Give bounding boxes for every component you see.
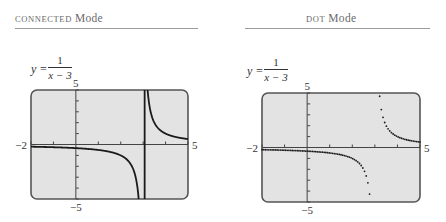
x-max-label: 5	[192, 139, 198, 151]
data-point	[328, 152, 330, 154]
data-point	[338, 154, 340, 156]
data-point	[392, 133, 394, 135]
data-point	[278, 149, 280, 151]
data-point	[409, 140, 411, 142]
data-point	[295, 150, 297, 152]
data-point	[342, 154, 344, 156]
y-max-label: 5	[304, 80, 310, 92]
data-point	[345, 155, 347, 157]
data-point	[296, 150, 298, 152]
data-point	[286, 149, 288, 151]
connected-mode-panel: CONNECTED Mode y = 1 x − 3 −255−5	[0, 0, 223, 222]
data-point	[285, 149, 287, 151]
data-point	[290, 150, 292, 152]
data-point	[276, 149, 278, 151]
data-point	[396, 135, 398, 137]
x-min-label: −2	[246, 142, 258, 154]
data-point	[301, 150, 303, 152]
data-point	[401, 137, 403, 139]
data-point	[300, 150, 302, 152]
data-point	[387, 128, 389, 130]
data-point	[350, 157, 352, 159]
data-point	[280, 149, 282, 151]
data-point	[359, 163, 361, 165]
data-point	[340, 154, 342, 156]
data-point	[407, 139, 409, 141]
data-point	[293, 150, 295, 152]
data-point	[412, 140, 414, 142]
y-min-label: −5	[70, 201, 82, 213]
data-point	[330, 152, 332, 154]
data-point	[365, 175, 367, 177]
data-point	[264, 149, 266, 151]
data-point	[352, 158, 354, 160]
data-point	[417, 141, 419, 143]
y-min-label: −5	[301, 204, 313, 216]
data-point	[335, 153, 337, 155]
data-point	[380, 109, 382, 111]
data-point	[291, 150, 293, 152]
data-point	[270, 149, 272, 151]
data-point	[266, 149, 268, 151]
data-point	[327, 152, 329, 154]
data-point	[394, 134, 396, 136]
data-point	[369, 193, 371, 195]
data-point	[333, 153, 335, 155]
data-point	[391, 132, 393, 134]
data-point	[317, 151, 319, 153]
data-point	[305, 150, 307, 152]
data-point	[355, 160, 357, 162]
data-point	[384, 122, 386, 124]
y-max-label: 5	[73, 77, 79, 89]
data-point	[312, 151, 314, 153]
data-point	[414, 140, 416, 142]
data-point	[306, 150, 308, 152]
data-point	[283, 149, 285, 151]
data-point	[362, 167, 364, 169]
data-point	[315, 151, 317, 153]
data-point	[399, 137, 401, 139]
data-point	[303, 150, 305, 152]
data-point	[382, 116, 384, 118]
data-point	[308, 150, 310, 152]
data-point	[318, 151, 320, 153]
data-point	[337, 153, 339, 155]
data-point	[411, 140, 413, 142]
data-point	[281, 149, 283, 151]
data-point	[385, 125, 387, 127]
data-point	[323, 151, 325, 153]
data-point	[298, 150, 300, 152]
data-point	[364, 170, 366, 172]
data-point	[325, 152, 327, 154]
data-point	[347, 156, 349, 158]
data-point	[360, 165, 362, 167]
data-point	[268, 149, 270, 151]
data-point	[313, 151, 315, 153]
data-point	[379, 95, 381, 97]
data-point	[349, 156, 351, 158]
data-point	[273, 149, 275, 151]
data-point	[367, 182, 369, 184]
data-point	[320, 151, 322, 153]
data-point	[275, 149, 277, 151]
data-point	[404, 138, 406, 140]
data-point	[332, 152, 334, 154]
x-min-label: −2	[15, 139, 27, 151]
data-point	[416, 141, 418, 143]
x-max-label: 5	[424, 142, 430, 154]
data-point	[402, 138, 404, 140]
connected-mode-graph: −255−5	[0, 0, 223, 222]
data-point	[263, 149, 265, 151]
data-point	[357, 161, 359, 163]
data-point	[397, 136, 399, 138]
data-point	[288, 149, 290, 151]
data-point	[271, 149, 273, 151]
data-point	[389, 130, 391, 132]
dot-mode-panel: DOT Mode y = 1 x − 3 −255−5	[223, 0, 446, 222]
data-point	[261, 149, 263, 151]
data-point	[406, 139, 408, 141]
dot-mode-graph: −255−5	[223, 0, 446, 222]
data-point	[322, 151, 324, 153]
data-point	[310, 150, 312, 152]
data-point	[419, 141, 421, 143]
